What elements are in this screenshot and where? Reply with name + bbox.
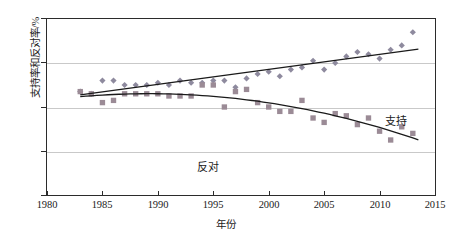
data-point-反对 bbox=[388, 137, 393, 142]
data-point-支持 bbox=[399, 42, 405, 48]
series-oppose-points bbox=[78, 82, 416, 142]
data-point-支持 bbox=[321, 67, 327, 73]
data-point-支持 bbox=[122, 82, 128, 88]
x-tick-mark-1990 bbox=[158, 191, 159, 196]
data-point-反对 bbox=[310, 115, 315, 120]
data-point-反对 bbox=[233, 89, 238, 94]
x-tick-mark-1980 bbox=[47, 191, 48, 196]
data-point-支持 bbox=[99, 78, 105, 84]
data-point-反对 bbox=[244, 87, 249, 92]
data-point-反对 bbox=[299, 98, 304, 103]
data-point-支持 bbox=[354, 49, 360, 55]
x-tick-mark-2000 bbox=[269, 191, 270, 196]
data-point-支持 bbox=[243, 75, 249, 81]
data-point-反对 bbox=[266, 104, 271, 109]
trendline-support-line bbox=[80, 49, 418, 95]
data-point-反对 bbox=[410, 131, 415, 136]
series-annotation-oppose: 反对 bbox=[197, 158, 219, 174]
data-point-反对 bbox=[100, 100, 105, 105]
x-tick-label-2010: 2010 bbox=[358, 199, 402, 210]
x-tick-mark-2015 bbox=[435, 191, 436, 196]
chart-figure: 80 60 40 20 0 支持率和反对率/% 支持 反对 bbox=[0, 0, 452, 239]
plot-area: 支持 反对 bbox=[46, 18, 436, 196]
data-point-反对 bbox=[200, 82, 205, 87]
x-tick-label-1995: 1995 bbox=[191, 199, 235, 210]
x-tick-label-2000: 2000 bbox=[247, 199, 291, 210]
x-axis-title: 年份 bbox=[0, 216, 452, 231]
data-point-支持 bbox=[376, 56, 382, 62]
data-point-支持 bbox=[255, 71, 261, 77]
data-point-反对 bbox=[321, 120, 326, 125]
x-tick-label-2005: 2005 bbox=[302, 199, 346, 210]
x-tick-label-1985: 1985 bbox=[80, 199, 124, 210]
data-point-支持 bbox=[221, 78, 227, 84]
x-tick-mark-2010 bbox=[380, 191, 381, 196]
x-tick-label-1980: 1980 bbox=[25, 199, 69, 210]
data-point-支持 bbox=[110, 78, 116, 84]
data-point-反对 bbox=[366, 115, 371, 120]
data-point-反对 bbox=[288, 109, 293, 114]
x-tick-mark-1985 bbox=[102, 191, 103, 196]
x-tick-mark-2005 bbox=[324, 191, 325, 196]
data-point-反对 bbox=[277, 109, 282, 114]
data-point-反对 bbox=[211, 82, 216, 87]
data-point-支持 bbox=[277, 73, 283, 79]
data-point-反对 bbox=[111, 98, 116, 103]
data-point-反对 bbox=[355, 122, 360, 127]
x-tick-label-1990: 1990 bbox=[136, 199, 180, 210]
series-support-points bbox=[77, 29, 416, 97]
data-point-支持 bbox=[288, 67, 294, 73]
data-point-反对 bbox=[222, 104, 227, 109]
x-tick-mark-1995 bbox=[213, 191, 214, 196]
y-axis-title: 支持率和反对率/% bbox=[27, 0, 42, 138]
x-tick-label-2015: 2015 bbox=[413, 199, 452, 210]
series-annotation-support: 支持 bbox=[385, 112, 407, 128]
chart-data-layer bbox=[47, 19, 435, 195]
data-point-支持 bbox=[410, 29, 416, 35]
data-point-反对 bbox=[377, 129, 382, 134]
data-point-反对 bbox=[78, 89, 83, 94]
